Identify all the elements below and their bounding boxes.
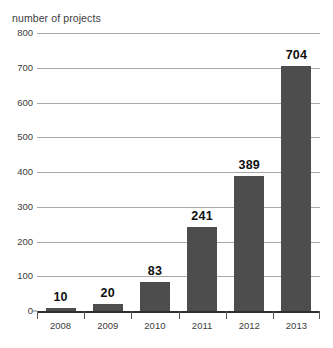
bar-chart: number of projects 010020030040050060070… xyxy=(0,0,333,348)
bar xyxy=(140,282,170,311)
bar xyxy=(281,66,311,311)
bar-value-label: 704 xyxy=(286,48,307,62)
x-axis: 200820092010201120122013 xyxy=(37,311,320,341)
y-axis-tick-label: 200 xyxy=(17,237,33,247)
x-axis-category-label: 2010 xyxy=(144,320,165,332)
bar-group: 704 xyxy=(273,33,320,311)
x-axis-tick xyxy=(179,311,180,319)
y-axis-tick-label: 600 xyxy=(17,98,33,108)
x-axis-category-label: 2012 xyxy=(239,320,260,332)
bar xyxy=(187,227,217,311)
bar xyxy=(234,176,264,311)
bar-group: 241 xyxy=(179,33,226,311)
plot-area: 102083241389704 xyxy=(37,33,320,311)
bar-value-label: 83 xyxy=(148,264,162,278)
y-axis-tick-label: 300 xyxy=(17,202,33,212)
chart-title: number of projects xyxy=(12,12,101,25)
y-axis-tick-label: 400 xyxy=(17,167,33,177)
x-axis-tick xyxy=(319,311,320,319)
x-axis-category-label: 2011 xyxy=(192,320,212,332)
bar-group: 20 xyxy=(84,33,131,311)
x-axis-tick xyxy=(226,311,227,319)
y-axis-tick-label: 800 xyxy=(17,28,33,38)
y-axis-tick-label: 700 xyxy=(17,63,33,73)
x-axis-tick xyxy=(131,311,132,319)
bar-group: 83 xyxy=(131,33,178,311)
y-axis: 0100200300400500600700800 xyxy=(0,33,33,311)
bar xyxy=(93,304,123,311)
y-axis-tick-label: 500 xyxy=(17,132,33,142)
bar-group: 389 xyxy=(226,33,273,311)
bar-group: 10 xyxy=(37,33,84,311)
x-axis-tick xyxy=(84,311,85,319)
x-axis-tick xyxy=(37,311,38,319)
bar-value-label: 389 xyxy=(239,158,260,172)
x-axis-category-label: 2013 xyxy=(286,320,307,332)
bar-value-label: 10 xyxy=(53,290,67,304)
bar-value-label: 20 xyxy=(101,286,115,300)
x-axis-category-label: 2008 xyxy=(50,320,71,332)
bar-series: 102083241389704 xyxy=(37,33,320,311)
bar-value-label: 241 xyxy=(191,209,212,223)
x-axis-tick xyxy=(273,311,274,319)
y-axis-tick-label: 100 xyxy=(17,271,33,281)
x-axis-category-label: 2009 xyxy=(97,320,118,332)
